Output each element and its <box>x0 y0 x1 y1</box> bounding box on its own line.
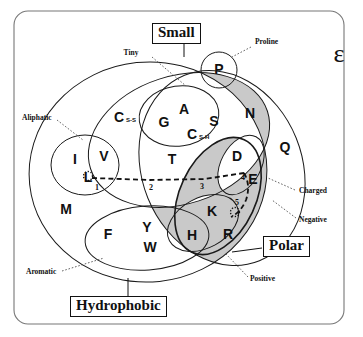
residue-M: M <box>60 201 72 217</box>
leader-polar <box>232 248 262 252</box>
boxed-label-hydrophobic: Hydrophobic <box>70 296 167 317</box>
leader-negative <box>272 200 296 218</box>
residue-A: A <box>179 101 189 117</box>
label-proline: Proline <box>255 37 279 46</box>
epsilon-symbol: ɛ <box>334 39 345 68</box>
residue-F: F <box>104 226 113 242</box>
leader-tiny <box>152 57 186 86</box>
residue-R: R <box>223 226 233 242</box>
residue-N: N <box>245 105 255 121</box>
residue-E: E <box>248 171 257 187</box>
residue-C-sh-subscript: S-H <box>199 134 209 140</box>
label-aliphatic: Aliphatic <box>22 113 52 122</box>
residue-H: H <box>187 227 197 243</box>
residue-V: V <box>99 148 109 164</box>
residue-C-ss: C <box>114 109 124 125</box>
label-negative: Negative <box>299 215 328 224</box>
residue-L: L <box>84 169 93 185</box>
label-charged: Charged <box>299 186 328 195</box>
residue-C-ss-subscript: S-S <box>126 117 136 123</box>
label-positive: Positive <box>250 274 276 283</box>
residue-I: I <box>73 151 77 167</box>
label-aromatic: Aromatic <box>26 267 57 276</box>
residue-P: P <box>214 61 223 77</box>
marker-3: 3 <box>200 182 204 191</box>
marker-2: 2 <box>149 183 153 192</box>
leader-charged <box>268 178 295 190</box>
boxed-label-polar: Polar <box>263 236 310 257</box>
residue-T: T <box>168 151 177 167</box>
boxed-label-small: Small <box>152 23 201 44</box>
label-tiny: Tiny <box>124 48 139 57</box>
figure-canvas: 1 2 3 4 5 P A G S N Q C S-S C S-H T D E … <box>0 0 363 337</box>
residue-S: S <box>209 113 218 129</box>
leader-aliphatic <box>57 120 83 140</box>
residue-W: W <box>143 239 157 255</box>
residue-G: G <box>159 114 170 130</box>
residue-Q: Q <box>280 139 291 155</box>
venn-diagram-svg: 1 2 3 4 5 P A G S N Q C S-S C S-H T D E … <box>0 0 363 337</box>
set-outline-aliphatic <box>51 135 119 195</box>
leader-proline <box>230 47 251 58</box>
marker-5: 5 <box>235 198 239 207</box>
residue-K: K <box>207 203 217 219</box>
marker-4: 4 <box>241 173 245 182</box>
residue-D: D <box>232 148 242 164</box>
residue-C-sh: C <box>187 126 197 142</box>
residue-Y: Y <box>142 219 152 235</box>
marker-1: 1 <box>95 183 99 192</box>
